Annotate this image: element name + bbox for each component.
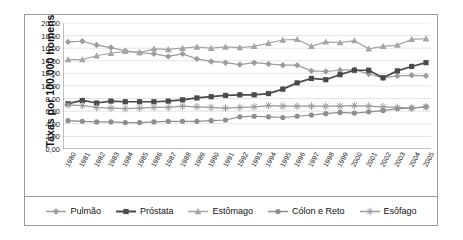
data-point-marker [265,102,273,110]
data-point-marker [53,208,59,214]
data-point-marker [252,114,257,119]
triangle-marker-icon [187,206,209,217]
data-point-marker [137,120,142,125]
data-point-marker [409,64,414,69]
chart-plot-frame: Taxas por 100.000 homens 0,002,004,006,0… [24,14,438,226]
legend-label: Estômago [212,206,253,216]
data-point-marker [207,104,215,112]
data-point-marker [93,42,99,48]
data-point-marker [194,95,199,100]
data-point-marker [208,58,214,64]
data-point-marker [94,119,99,124]
data-point-marker [223,117,228,122]
y-tick-label: 0,00 [45,145,60,154]
data-point-marker [80,119,85,124]
data-point-marker [365,102,373,110]
data-point-marker [380,75,385,80]
data-point-marker [366,109,371,114]
data-point-marker [395,68,400,73]
legend-label: Pulmão [70,206,101,216]
x-tick-label: 1994 [264,151,277,168]
data-point-marker [308,102,316,110]
data-point-marker [151,119,156,124]
data-point-marker [136,104,144,112]
data-point-marker [65,118,70,123]
square-marker-icon [115,206,137,217]
data-point-marker [151,99,156,104]
data-point-marker [237,92,242,97]
data-point-marker [137,99,142,104]
x-tick-label: 1989 [193,151,206,168]
x-tick-label: 1981 [78,151,91,168]
legend-label: Cólon e Reto [292,206,345,216]
data-point-marker [79,38,85,44]
series-line [68,105,426,109]
data-point-marker [266,114,271,119]
data-point-marker [422,103,430,111]
x-tick-label: 1991 [221,151,234,168]
data-point-marker [123,208,128,213]
chart-legend: PulmãoPróstataEstômagoCólon e RetoEsôfag… [24,196,438,226]
x-tick-label: 1988 [178,151,191,168]
data-point-marker [280,62,286,68]
data-point-marker [337,110,342,115]
series-line [68,39,426,60]
x-tick-label: 2004 [407,151,420,168]
y-tick-label: 12,00 [41,69,60,78]
data-point-marker [351,102,359,110]
data-point-marker [180,97,185,102]
data-point-marker [193,103,201,111]
data-point-marker [295,80,300,85]
data-point-marker [123,120,128,125]
data-point-marker [379,103,387,111]
circle-marker-icon [267,206,289,217]
x-tick-label: 2002 [379,151,392,168]
x-tick-label: 1997 [307,151,320,168]
x-tick-label: 1993 [250,151,263,168]
data-point-marker [223,93,228,98]
legend-label: Esôfago [384,206,417,216]
legend-item-pulm-o[interactable]: Pulmão [45,206,101,217]
legend-item-c-lon-e-reto[interactable]: Cólon e Reto [267,206,345,217]
x-tick-label: 1998 [321,151,334,168]
y-tick-label: 10,00 [41,82,60,91]
legend-item-pr-stata[interactable]: Próstata [115,206,174,217]
data-point-marker [108,99,113,104]
data-point-marker [107,104,115,112]
data-point-marker [166,99,171,104]
data-point-marker [166,119,171,124]
data-point-marker [309,76,314,81]
x-tick-label: 1999 [336,151,349,168]
data-point-marker [275,208,280,213]
data-point-marker [279,102,287,110]
data-point-marker [352,110,357,115]
data-point-marker [295,114,300,119]
x-tick-label: 1982 [92,151,105,168]
data-point-marker [265,61,271,67]
data-point-marker [323,111,328,116]
data-point-marker [108,44,114,50]
legend-item-es-fago[interactable]: Esôfago [359,206,417,217]
data-point-marker [294,62,300,68]
legend-label: Próstata [140,206,174,216]
x-tick-label: 2003 [393,151,406,168]
data-point-marker [194,119,199,124]
data-point-marker [93,104,101,112]
y-tick-label: 16,00 [41,44,60,53]
x-tick-label: 1986 [150,151,163,168]
data-point-marker [252,92,257,97]
y-axis-tick-labels: 0,002,004,006,008,0010,0012,0014,0016,00… [25,15,63,141]
data-point-marker [293,102,301,110]
data-point-marker [280,115,285,120]
legend-item-est-mago[interactable]: Estômago [187,206,253,217]
x-axis-tick-labels: 1980198119821983198419851986198719881989… [63,151,431,193]
data-point-marker [237,114,242,119]
data-point-marker [280,87,285,92]
x-tick-label: 1992 [236,151,249,168]
data-point-marker [123,99,128,104]
x-tick-label: 1980 [64,151,77,168]
data-point-marker [164,104,172,112]
data-point-marker [323,77,328,82]
data-point-marker [336,102,344,110]
data-point-marker [351,37,358,43]
